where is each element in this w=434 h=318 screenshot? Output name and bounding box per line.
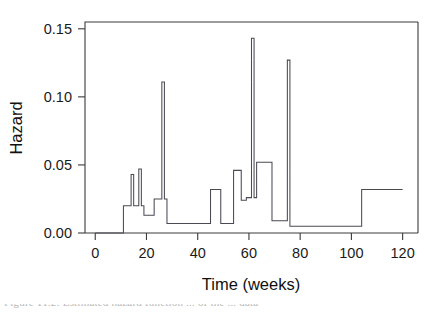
hazard-figure: 0.000.050.100.15 020406080100120 Time (w… (0, 0, 434, 318)
hazard-step-chart: 0.000.050.100.15 020406080100120 Time (w… (0, 0, 434, 318)
figure-caption-strip: Figure 11.2: Estimated hazard function .… (0, 304, 434, 318)
figure-caption: Figure 11.2: Estimated hazard function .… (4, 304, 258, 308)
x-tick-label-0: 0 (91, 245, 99, 261)
hazard-step-line (95, 38, 402, 233)
x-tick-label-3: 60 (241, 245, 257, 261)
y-axis-title: Hazard (7, 101, 25, 154)
x-tick-label-2: 40 (190, 245, 206, 261)
y-axis-ticks: 0.000.050.100.15 (44, 21, 85, 241)
x-axis-title: Time (weeks) (202, 275, 300, 293)
x-tick-label-4: 80 (292, 245, 308, 261)
x-tick-label-1: 20 (138, 245, 154, 261)
x-tick-label-5: 100 (339, 245, 363, 261)
y-tick-label-0: 0.00 (44, 225, 72, 241)
x-axis-ticks: 020406080100120 (91, 233, 415, 261)
y-tick-label-2: 0.10 (44, 89, 72, 105)
y-tick-label-3: 0.15 (44, 21, 72, 37)
y-tick-label-1: 0.05 (44, 157, 72, 173)
x-tick-label-6: 120 (391, 245, 415, 261)
